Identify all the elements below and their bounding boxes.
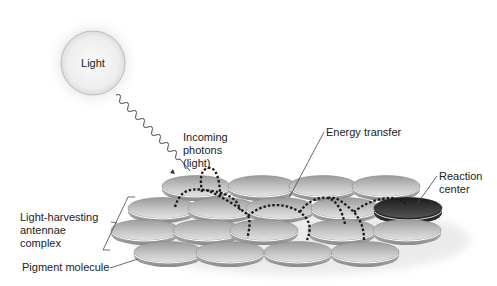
reaction-center-label: Reaction center (417, 170, 482, 204)
photon-arrowhead-icon (170, 169, 175, 174)
svg-text:photons: photons (183, 144, 223, 156)
pigment-disc (352, 176, 420, 202)
pigment-disc (134, 242, 202, 268)
pigment-molecule-label: Pigment molecule (22, 259, 138, 273)
pigment-disc (111, 220, 179, 246)
pigment-molecule-leader-line (110, 259, 138, 268)
svg-text:(light): (light) (183, 157, 211, 169)
light-label: Light (81, 57, 105, 69)
light-harvesting-diagram: Light Incoming photons (light) (0, 0, 497, 286)
svg-text:Light-harvesting: Light-harvesting (20, 211, 98, 223)
svg-text:center: center (439, 183, 470, 195)
svg-text:Energy transfer: Energy transfer (326, 126, 402, 138)
svg-text:complex: complex (20, 237, 61, 249)
pigment-disc (331, 242, 399, 268)
pigment-disc (264, 242, 332, 268)
pigment-disc (230, 220, 298, 246)
incoming-photons-label: Incoming photons (light) (183, 131, 228, 169)
pigment-disc (373, 220, 441, 246)
pigment-row-3 (111, 220, 441, 246)
pigment-disc (196, 242, 264, 268)
svg-text:Pigment molecule: Pigment molecule (22, 261, 109, 273)
pigment-disc (128, 198, 196, 224)
pigment-disc (308, 220, 376, 246)
svg-text:Incoming: Incoming (183, 131, 228, 143)
pigment-disc (311, 198, 379, 224)
light-source: Light (45, 15, 141, 111)
svg-text:antennae: antennae (20, 224, 66, 236)
svg-text:Reaction: Reaction (439, 170, 482, 182)
pigment-disc (228, 176, 296, 202)
photon-wave (116, 95, 190, 172)
pigment-disc (188, 198, 256, 224)
pigment-row-1 (162, 176, 420, 202)
